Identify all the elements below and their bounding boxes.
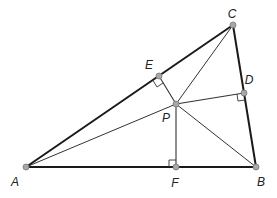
segment-PB <box>176 104 256 167</box>
segment-PA <box>26 104 176 167</box>
segment-PD <box>176 93 244 104</box>
segment-PE <box>159 76 176 104</box>
label-A: A <box>11 176 19 188</box>
point-B <box>253 164 259 170</box>
label-E: E <box>145 59 153 71</box>
label-C: C <box>228 8 237 20</box>
triangle-diagram: A B C D E F P <box>0 0 277 198</box>
label-D: D <box>245 74 254 86</box>
segment-PC <box>176 25 233 104</box>
diagram-canvas <box>0 0 277 198</box>
right-angle-marker-E <box>153 81 163 88</box>
point-C <box>230 22 236 28</box>
point-E <box>156 73 162 79</box>
label-B: B <box>257 176 265 188</box>
side-CA <box>26 25 233 167</box>
point-D <box>241 90 247 96</box>
point-F <box>173 164 179 170</box>
label-P: P <box>162 112 170 124</box>
point-A <box>23 164 29 170</box>
label-F: F <box>171 177 178 189</box>
point-P <box>173 101 179 107</box>
